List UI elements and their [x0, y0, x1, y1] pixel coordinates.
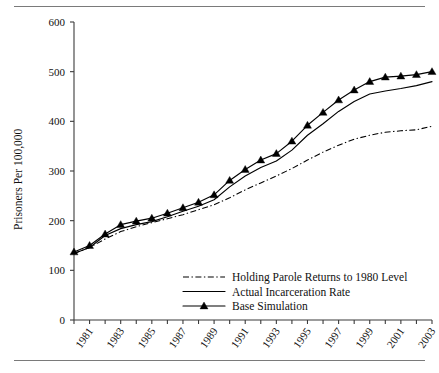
figure-container: 0100200300400500600 19811983198519871989…	[0, 0, 439, 373]
series-marker-triangle	[428, 68, 436, 75]
series-marker-triangle	[241, 166, 249, 173]
line-chart: 0100200300400500600 19811983198519871989…	[0, 0, 439, 373]
y-tick-label: 200	[49, 215, 66, 227]
series-marker-triangle	[335, 96, 343, 103]
x-tick-label: 1987	[166, 325, 189, 350]
chart-legend: Holding Parole Returns to 1980 LevelActu…	[183, 271, 407, 312]
y-axis-tick-labels: 0100200300400500600	[49, 16, 66, 326]
y-axis-title: Prisoners Per 100,000	[12, 128, 25, 230]
legend-label-2: Base Simulation	[232, 300, 308, 312]
x-tick-label: 1997	[322, 325, 345, 350]
x-tick-label: 1999	[353, 325, 376, 350]
x-tick-label: 1983	[104, 325, 127, 350]
x-tick-label: 1991	[228, 325, 250, 350]
x-tick-label: 1981	[73, 325, 95, 350]
series-marker-triangle	[272, 150, 280, 157]
x-tick-label: 2003	[415, 325, 438, 350]
y-tick-label: 100	[49, 264, 66, 276]
x-tick-label: 2001	[384, 325, 406, 350]
series-marker-triangle	[195, 198, 203, 205]
legend-label-1: Actual Incarceration Rate	[232, 286, 350, 298]
x-tick-label: 1993	[260, 325, 283, 350]
series-line-1	[74, 82, 432, 254]
x-axis-ticks	[74, 320, 432, 324]
x-tick-label: 1985	[135, 325, 158, 350]
y-tick-label: 600	[49, 16, 66, 28]
legend-label-0: Holding Parole Returns to 1980 Level	[232, 271, 407, 284]
y-tick-label: 0	[60, 314, 66, 326]
y-tick-label: 300	[49, 165, 66, 177]
x-tick-label: 1995	[291, 325, 314, 350]
x-tick-label: 1989	[197, 325, 220, 350]
series-marker-triangle	[101, 230, 109, 237]
series-line-0	[74, 126, 432, 253]
y-tick-label: 400	[49, 115, 66, 127]
series-marker-triangle	[350, 86, 358, 93]
y-axis-ticks	[70, 22, 74, 320]
series-marker-triangle	[226, 176, 234, 183]
x-axis-tick-labels: 1981198319851987198919911993199519971999…	[73, 325, 438, 350]
chart-series-group	[70, 68, 436, 255]
y-tick-label: 500	[49, 66, 66, 78]
series-line-2	[74, 72, 432, 252]
